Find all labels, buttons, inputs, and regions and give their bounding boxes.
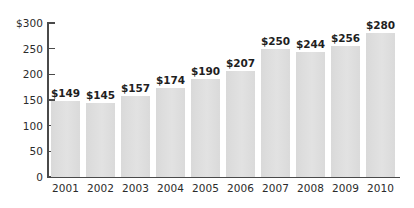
x-category-label-2003: 2003 xyxy=(116,182,156,194)
bar-slot: $190 xyxy=(191,23,220,177)
bar-value-label: $207 xyxy=(226,57,255,69)
bar-slot: $149 xyxy=(51,23,80,177)
bar-slot: $174 xyxy=(156,23,185,177)
y-tick-label-50: 50 xyxy=(29,145,43,157)
bar xyxy=(331,46,360,177)
bar-value-label: $250 xyxy=(261,35,290,47)
bar xyxy=(296,52,325,177)
bar-value-label: $190 xyxy=(191,65,220,77)
bar xyxy=(121,96,150,177)
x-category-label-2002: 2002 xyxy=(81,182,121,194)
bar xyxy=(226,71,255,177)
x-category-label-2010: 2010 xyxy=(361,182,401,194)
bar-slot: $256 xyxy=(331,23,360,177)
x-category-label-2005: 2005 xyxy=(186,182,226,194)
bar-value-label: $256 xyxy=(331,32,360,44)
bars-group: $149$145$157$174$190$207$250$244$256$280 xyxy=(51,23,400,177)
bar xyxy=(366,33,395,177)
bar-value-label: $145 xyxy=(86,89,115,101)
x-category-label-2007: 2007 xyxy=(256,182,296,194)
y-tick-label-200: 200 xyxy=(23,68,43,80)
bar-slot: $244 xyxy=(296,23,325,177)
bar xyxy=(191,79,220,177)
bar xyxy=(51,101,80,177)
x-category-label-2001: 2001 xyxy=(46,182,86,194)
bar xyxy=(156,88,185,177)
bar-slot: $157 xyxy=(121,23,150,177)
x-category-label-2006: 2006 xyxy=(221,182,261,194)
bar-slot: $207 xyxy=(226,23,255,177)
bar xyxy=(86,103,115,177)
bar-chart: 050100150200250$300 $149$145$157$174$190… xyxy=(0,0,414,208)
bar-slot: $280 xyxy=(366,23,395,177)
y-tick-label-150: 150 xyxy=(23,94,43,106)
bar-value-label: $174 xyxy=(156,74,185,86)
x-category-label-2008: 2008 xyxy=(291,182,331,194)
bar xyxy=(261,49,290,177)
y-tick-label-250: 250 xyxy=(23,43,43,55)
x-category-label-2004: 2004 xyxy=(151,182,191,194)
y-tick-label-100: 100 xyxy=(23,120,43,132)
bar-value-label: $244 xyxy=(296,38,325,50)
bar-value-label: $157 xyxy=(121,82,150,94)
bar-slot: $250 xyxy=(261,23,290,177)
bar-value-label: $149 xyxy=(51,87,80,99)
y-tick-label-0: 0 xyxy=(36,171,43,183)
y-tick-label-300: $300 xyxy=(16,17,43,29)
x-category-label-2009: 2009 xyxy=(326,182,366,194)
bar-value-label: $280 xyxy=(366,19,395,31)
bar-slot: $145 xyxy=(86,23,115,177)
